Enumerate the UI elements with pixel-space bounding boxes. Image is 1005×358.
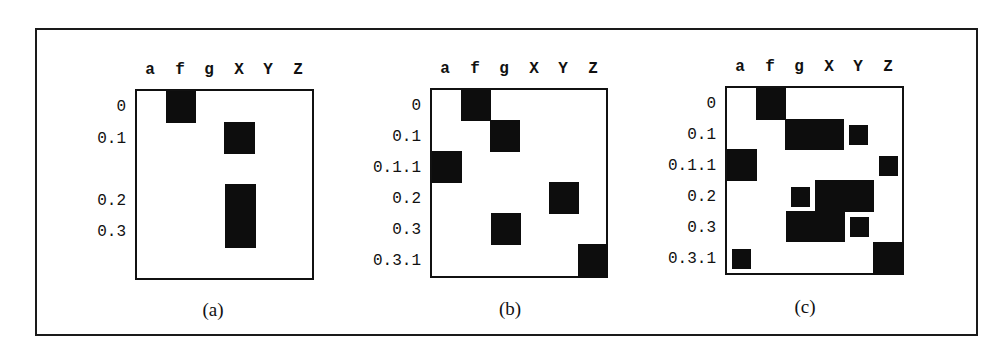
col-label-g: g: [489, 60, 519, 78]
cell-0.1-g: [490, 120, 520, 152]
caption-a: (a): [183, 299, 243, 321]
row-label-0-3-1: 0.3.1: [626, 250, 716, 268]
col-label-g: g: [194, 61, 224, 79]
cell-0.1-x: [224, 122, 255, 154]
cell-0.2-0.3-x: [225, 184, 256, 248]
row-label-0-2: 0.2: [36, 192, 126, 210]
cell-0.1.1-a: [432, 151, 462, 183]
col-label-y: Y: [253, 61, 283, 79]
matrix-grid-a: [135, 89, 314, 280]
cell-0.3-g: [491, 213, 521, 245]
col-label-z: Z: [873, 58, 903, 76]
cell-0-f: [756, 88, 786, 120]
cell-0.3-g-x: [786, 211, 845, 242]
row-label-0-1: 0.1: [626, 126, 716, 144]
col-label-g: g: [784, 58, 814, 76]
col-label-x: X: [814, 58, 844, 76]
col-label-y: Y: [548, 60, 578, 78]
cell-0.1.1-z-small: [879, 156, 898, 176]
matrix-grid-c: [725, 86, 904, 275]
col-label-x: X: [519, 60, 549, 78]
cell-0-f: [461, 90, 491, 121]
col-label-x: X: [224, 61, 254, 79]
cell-0.2-g-small: [791, 187, 810, 207]
col-label-f: f: [165, 61, 195, 79]
cell-0.1-g-x: [785, 119, 844, 150]
row-label-0-2: 0.2: [626, 188, 716, 206]
cell-0.3-y-small: [850, 217, 869, 237]
cell-0.2-x-y: [815, 180, 874, 212]
col-label-a: a: [430, 60, 460, 78]
col-label-z: Z: [578, 60, 608, 78]
col-label-z: Z: [283, 61, 313, 79]
cell-0.1.1-a: [727, 149, 757, 181]
cell-0.3.1-z: [578, 244, 608, 278]
caption-b: (b): [480, 298, 540, 320]
col-label-a: a: [135, 61, 165, 79]
row-label-0-1: 0.1: [331, 128, 421, 146]
row-label-0: 0: [626, 95, 716, 113]
row-label-0-3: 0.3: [626, 219, 716, 237]
row-label-0-3: 0.3: [36, 223, 126, 241]
cell-0.2-y: [549, 182, 579, 214]
row-label-0-1-1: 0.1.1: [626, 157, 716, 175]
row-label-0: 0: [331, 97, 421, 115]
col-label-f: f: [755, 58, 785, 76]
row-label-0-2: 0.2: [331, 190, 421, 208]
cell-0-f: [166, 91, 196, 123]
caption-c: (c): [775, 296, 835, 318]
row-label-0-3-1: 0.3.1: [331, 252, 421, 270]
col-label-f: f: [460, 60, 490, 78]
cell-0.3.1-z: [873, 242, 904, 275]
cell-0.1-y-small: [849, 125, 868, 145]
col-label-a: a: [725, 58, 755, 76]
row-label-0-1-1: 0.1.1: [331, 159, 421, 177]
row-label-0-1: 0.1: [36, 130, 126, 148]
row-label-0: 0: [36, 98, 126, 116]
matrix-grid-b: [430, 88, 608, 278]
cell-0.3.1-a-small: [732, 249, 751, 269]
col-label-y: Y: [843, 58, 873, 76]
row-label-0-3: 0.3: [331, 221, 421, 239]
